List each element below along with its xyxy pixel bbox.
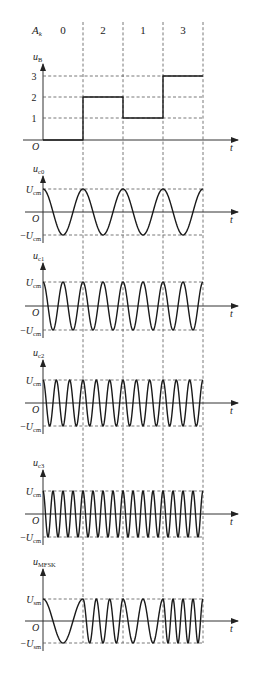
panel-uc2: uc2OtUcm−Ucm	[20, 347, 238, 434]
amplitude-label-positive: Ucm	[26, 375, 41, 387]
level-tick-label: 1	[32, 113, 37, 124]
amplitude-label-positive: Usm	[26, 594, 41, 606]
amplitude-label-negative: −Ucm	[20, 421, 41, 433]
time-label: t	[230, 214, 233, 225]
panel-uB: uBOt123	[23, 51, 238, 153]
mfsk-diagram: Ak 0213 uBOt123uc0OtUcm−Ucmuc1OtUcm−Ucmu…	[0, 0, 255, 676]
time-label: t	[230, 142, 233, 153]
y-axis-label: uc0	[33, 163, 44, 175]
symbol-label: 2	[100, 24, 106, 36]
amplitude-label-negative: −Ucm	[20, 230, 41, 242]
y-axis-label: uc1	[33, 250, 44, 262]
level-tick-label: 3	[32, 71, 37, 82]
time-label: t	[230, 405, 233, 416]
origin-label: O	[32, 213, 39, 224]
level-tick-label: 2	[32, 92, 37, 103]
symbol-row-label: Ak	[31, 24, 43, 38]
y-axis-label: uMFSK	[33, 556, 56, 568]
origin-label: O	[32, 307, 39, 318]
time-label: t	[230, 308, 233, 319]
origin-label: O	[32, 622, 39, 633]
symbol-label: 0	[60, 24, 66, 36]
origin-label: O	[32, 515, 39, 526]
amplitude-label-positive: Ucm	[26, 277, 41, 289]
panel-uMFSK: uMFSKOtUsm−Usm	[21, 556, 238, 651]
origin-label: O	[32, 404, 39, 415]
origin-label: O	[32, 141, 39, 152]
amplitude-label-negative: −Ucm	[20, 325, 41, 337]
symbol-boundaries	[83, 22, 203, 643]
waveform-panels: uBOt123uc0OtUcm−Ucmuc1OtUcm−Ucmuc2OtUcm−…	[20, 51, 238, 651]
amplitude-label-negative: −Usm	[21, 638, 41, 650]
panel-uc3: uc3OtUcm−Ucm	[20, 457, 238, 545]
panel-uc1: uc1OtUcm−Ucm	[20, 250, 238, 338]
y-axis-label: uB	[33, 51, 43, 63]
y-axis-label: uc2	[33, 347, 44, 359]
time-label: t	[230, 623, 233, 634]
amplitude-label-negative: −Ucm	[20, 532, 41, 544]
y-axis-label: uc3	[33, 457, 44, 469]
amplitude-label-positive: Ucm	[26, 486, 41, 498]
amplitude-label-positive: Ucm	[26, 184, 41, 196]
time-label: t	[230, 516, 233, 527]
symbol-label: 3	[180, 24, 186, 36]
panel-uc0: uc0OtUcm−Ucm	[20, 163, 238, 243]
symbol-label: 1	[140, 24, 146, 36]
